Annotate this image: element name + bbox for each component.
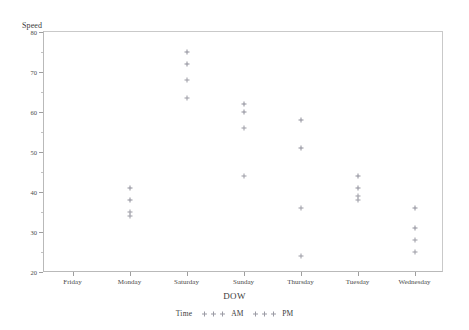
x-tick-label: Monday <box>118 278 141 286</box>
data-point-marker <box>412 226 417 231</box>
x-tick-mark <box>301 272 302 276</box>
legend-entry-am[interactable]: AM <box>201 309 243 318</box>
plot-data-area <box>44 32 443 272</box>
x-tick-mark <box>73 272 74 276</box>
data-point-marker <box>184 62 189 67</box>
x-tick-mark <box>187 272 188 276</box>
y-tick-label: 40 <box>31 189 38 196</box>
x-tick-label: Tuesday <box>346 278 369 286</box>
x-tick-mark <box>130 272 131 276</box>
data-point-marker <box>298 206 303 211</box>
legend-label: PM <box>282 309 293 318</box>
legend-entry-pm[interactable]: PM <box>252 309 293 318</box>
legend-title: Time <box>176 309 192 318</box>
x-tick-label: Sunday <box>233 278 254 286</box>
x-tick-mark <box>358 272 359 276</box>
y-tick-label: 30 <box>31 229 38 236</box>
data-point-marker <box>355 186 360 191</box>
data-point-marker <box>184 96 189 101</box>
legend-marker-icon <box>252 310 278 317</box>
data-point-marker <box>241 110 246 115</box>
x-tick-label: Friday <box>63 278 81 286</box>
data-point-marker <box>355 198 360 203</box>
data-point-marker <box>241 174 246 179</box>
y-tick-label: 70 <box>31 69 38 76</box>
data-point-marker <box>184 78 189 83</box>
y-tick-label: 80 <box>31 29 38 36</box>
x-tick-label: Wednesday <box>398 278 430 286</box>
y-axis-ticks: 20304050607080 <box>0 31 43 272</box>
data-point-marker <box>412 250 417 255</box>
x-tick-label: Thursday <box>287 278 313 286</box>
x-axis-title: DOW <box>0 291 469 301</box>
data-point-marker <box>184 50 189 55</box>
x-tick-label: Saturday <box>174 278 199 286</box>
data-point-marker <box>127 198 132 203</box>
legend-marker-icon <box>201 310 227 317</box>
data-point-marker <box>412 206 417 211</box>
y-tick-label: 50 <box>31 149 38 156</box>
data-point-marker <box>412 238 417 243</box>
data-point-marker <box>355 174 360 179</box>
legend-label: AM <box>231 309 243 318</box>
scatter-plot-chart: Speed 20304050607080 FridayMondaySaturda… <box>0 0 469 330</box>
y-tick-label: 60 <box>31 109 38 116</box>
data-point-marker <box>298 118 303 123</box>
data-point-marker <box>298 254 303 259</box>
data-point-marker <box>127 186 132 191</box>
x-tick-mark <box>244 272 245 276</box>
y-tick-label: 20 <box>31 269 38 276</box>
chart-legend: Time AMPM <box>0 309 469 318</box>
data-point-marker <box>127 214 132 219</box>
data-point-marker <box>241 102 246 107</box>
data-point-marker <box>298 146 303 151</box>
data-point-marker <box>241 126 246 131</box>
x-tick-mark <box>415 272 416 276</box>
